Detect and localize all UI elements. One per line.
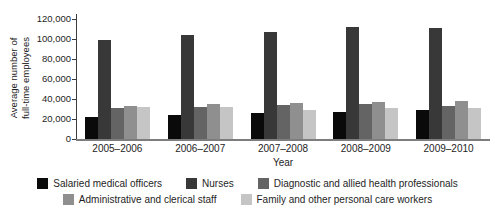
bar-3-4	[290, 103, 303, 140]
y-tick-label: 80,000	[25, 54, 71, 64]
bar-5-3	[442, 106, 455, 139]
bar-2-4	[207, 104, 220, 140]
bar-1-2	[98, 40, 111, 140]
legend-label: Diagnostic and allied health professiona…	[274, 178, 458, 189]
legend-item: Salaried medical officers	[37, 178, 162, 189]
y-tick-label: 100,000	[25, 34, 71, 44]
y-tick-label: 20,000	[25, 114, 71, 124]
plot-area	[76, 19, 490, 139]
bar-chart: Average number of full-time employees 02…	[0, 0, 495, 220]
legend-swatch-icon	[37, 178, 48, 189]
bar-3-5	[303, 110, 316, 140]
legend-item: Diagnostic and allied health professiona…	[258, 178, 458, 189]
x-axis-label: 2007–2008	[243, 143, 323, 154]
x-axis-title: Year	[243, 157, 323, 168]
y-tick-label: 60,000	[25, 74, 71, 84]
bar-3-3	[277, 105, 290, 140]
bar-5-1	[416, 110, 429, 140]
legend-item: Nurses	[186, 178, 234, 189]
legend-item: Family and other personal care workers	[241, 194, 433, 205]
bar-3-1	[251, 113, 264, 139]
legend-label: Nurses	[202, 178, 234, 189]
bar-2-2	[181, 35, 194, 139]
legend: Salaried medical officersNursesDiagnosti…	[9, 178, 487, 205]
legend-label: Administrative and clerical staff	[79, 194, 217, 205]
legend-item: Administrative and clerical staff	[63, 194, 217, 205]
bar-2-1	[168, 115, 181, 139]
bar-4-4	[372, 102, 385, 140]
y-tick-label: 40,000	[25, 94, 71, 104]
y-tick-label: 120,000	[25, 14, 71, 24]
x-axis-label: 2009–2010	[409, 143, 489, 154]
bar-2-5	[220, 107, 233, 139]
bar-1-4	[124, 106, 137, 140]
bar-5-2	[429, 28, 442, 139]
bar-5-5	[468, 108, 481, 139]
bar-4-2	[346, 27, 359, 139]
bar-1-1	[85, 117, 98, 139]
bar-1-5	[137, 107, 150, 140]
bar-1-3	[111, 108, 124, 140]
bar-4-3	[359, 104, 372, 139]
x-axis-label: 2006–2007	[160, 143, 240, 154]
legend-swatch-icon	[241, 194, 252, 205]
legend-swatch-icon	[186, 178, 197, 189]
bar-3-2	[264, 32, 277, 140]
legend-label: Family and other personal care workers	[257, 194, 433, 205]
bar-4-1	[333, 112, 346, 140]
bar-5-4	[455, 101, 468, 139]
bar-2-3	[194, 107, 207, 140]
x-axis-label: 2008–2009	[326, 143, 406, 154]
bar-4-5	[385, 108, 398, 140]
legend-swatch-icon	[63, 194, 74, 205]
y-axis-title-line1: Average number of	[8, 37, 20, 119]
legend-swatch-icon	[258, 178, 269, 189]
y-tick-label: 0	[25, 134, 71, 144]
legend-label: Salaried medical officers	[53, 178, 162, 189]
x-axis-label: 2005–2006	[77, 143, 157, 154]
x-axis-line	[76, 139, 490, 141]
